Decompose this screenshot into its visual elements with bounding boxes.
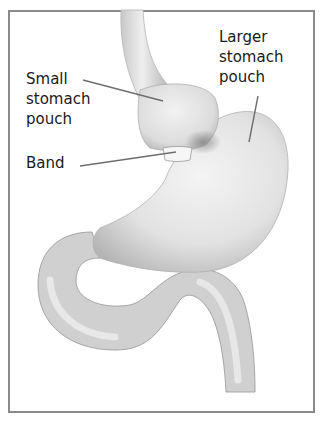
- label-larger-stomach-pouch: Larger stomach pouch: [219, 27, 283, 87]
- label-band: Band: [26, 153, 65, 173]
- leader-line-band: [80, 152, 176, 166]
- label-small-stomach-pouch: Small stomach pouch: [26, 69, 90, 129]
